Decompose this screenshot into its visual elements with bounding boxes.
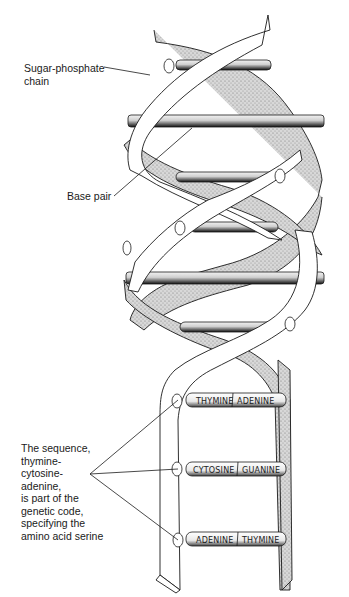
sugar-phosphate-leader [104,67,150,75]
sequence-note-line: cytosine- [21,467,103,480]
sugar-phosphate-label: Sugar-phosphate chain [24,62,105,87]
sequence-note-line: adenine, [21,480,103,493]
base-pair-rod [126,272,324,284]
base-pair-3-right: THYMINE [241,536,280,545]
sugar-phosphate-label-line-2: chain [24,75,105,88]
sugar-phosphate-label-line-1: Sugar-phosphate [24,62,105,75]
sequence-note-line: amino acid serine [21,530,103,543]
base-pair-2-left: CYTOSINE [193,466,235,475]
base-pair-2-right: GUANINE [242,466,280,475]
sequence-note: The sequence, thymine- cytosine- adenine… [21,442,103,542]
sequence-note-line: genetic code, [21,505,103,518]
sequence-note-line: specifying the [21,517,103,530]
sequence-note-line: The sequence, [21,442,103,455]
base-pair-3-left: ADENINE [196,536,233,545]
sequence-note-line: is part of the [21,492,103,505]
base-pair-1-right: ADENINE [237,397,274,406]
base-pair-label: Base pair [67,190,111,203]
base-pair-1-left: THYMINE [195,397,234,406]
sequence-note-line: thymine- [21,455,103,468]
